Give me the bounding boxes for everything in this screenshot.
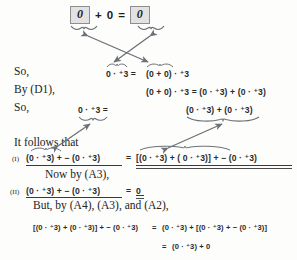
top-equation: 0 + 0 = 0 [70, 6, 150, 24]
brace-under-boxed-left [70, 25, 98, 32]
so1-rhs: (0 + 0) · ⁺3 [146, 70, 189, 79]
lineII-lhs: (0 · ⁺3) + − (0 · ⁺3) [26, 187, 100, 196]
plus-operator: + [95, 9, 102, 21]
brace-over-lineI-lhs [30, 146, 62, 152]
boxed-zero-right: 0 [130, 6, 150, 24]
rule-lineII-rhs-top [136, 195, 144, 196]
label-by-d1: By (D1), [14, 84, 55, 96]
brace-under-so2-rhs [186, 116, 260, 124]
lineII-equals: = [126, 187, 131, 196]
lineI-rhs: [(0 · ⁺3) + ( 0 · ⁺3)] + − (0 · ⁺3) [136, 154, 257, 163]
label-now-by-a3: Now by (A3), [45, 169, 109, 181]
equals-operator: = [118, 9, 125, 21]
proof-page: 0 + 0 = 0 So, 0 · ⁺3 = (0 + 0) · ⁺3 By (… [0, 0, 297, 260]
chain1-rhs: (0 · ⁺3) + [(0 · ⁺3) + − (0 · ⁺3)] [162, 224, 267, 232]
rule-lineI-rhs-bottom [136, 168, 292, 169]
tag-line-I: (I) [12, 156, 19, 163]
label-so-1: So, [14, 66, 29, 78]
lineI-equals: = [126, 154, 131, 163]
label-so-2: So, [14, 102, 29, 114]
brace-under-so2-lhs [78, 116, 108, 123]
by-d1-equation: (0 + 0) · ⁺3 = (0 · ⁺3) + (0 · ⁺3) [146, 88, 266, 97]
lineI-lhs: (0 · ⁺3) + − (0 · ⁺3) [26, 154, 100, 163]
chain1-equals: = [152, 224, 157, 232]
brace-under-boxed-right [137, 25, 165, 32]
arrow-cross-right-down [114, 36, 150, 62]
chain2-equals: = [162, 243, 167, 251]
so1-lhs: 0 · ⁺3 = [106, 70, 136, 79]
annotation-arrow-layer [0, 0, 297, 260]
brace-over-so1-rhs [146, 62, 174, 68]
brace-over-lineI-rhs [139, 144, 231, 151]
rule-lineI-lhs [26, 165, 122, 166]
rule-lineI-rhs-top [136, 165, 292, 166]
addend-zero: 0 [107, 9, 113, 21]
rule-lineII-lhs [26, 197, 122, 198]
chain1-lhs: [(0 · ⁺3) + (0 · ⁺3)] + − (0 · ⁺3) [33, 224, 138, 232]
so2-rhs: (0 · ⁺3) + (0 · ⁺3) [186, 106, 253, 115]
boxed-zero-left: 0 [70, 6, 90, 24]
arrow-cross-left-down [88, 36, 148, 62]
brace-over-so1-lhs [106, 62, 128, 68]
tag-line-II: (II) [10, 189, 19, 196]
label-but-by: But, by (A4), (A3), and (A2), [33, 200, 169, 212]
so2-lhs: 0 · ⁺3 = [78, 106, 108, 115]
chain2-rhs: (0 · ⁺3) + 0 [172, 243, 210, 251]
